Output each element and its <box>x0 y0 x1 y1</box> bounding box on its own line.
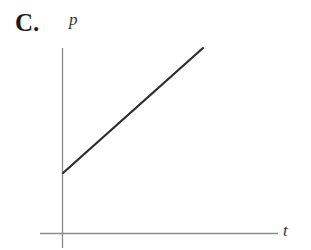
graph-option-c: C. p t <box>0 0 311 250</box>
data-line <box>63 48 203 173</box>
graph-canvas <box>0 0 311 250</box>
